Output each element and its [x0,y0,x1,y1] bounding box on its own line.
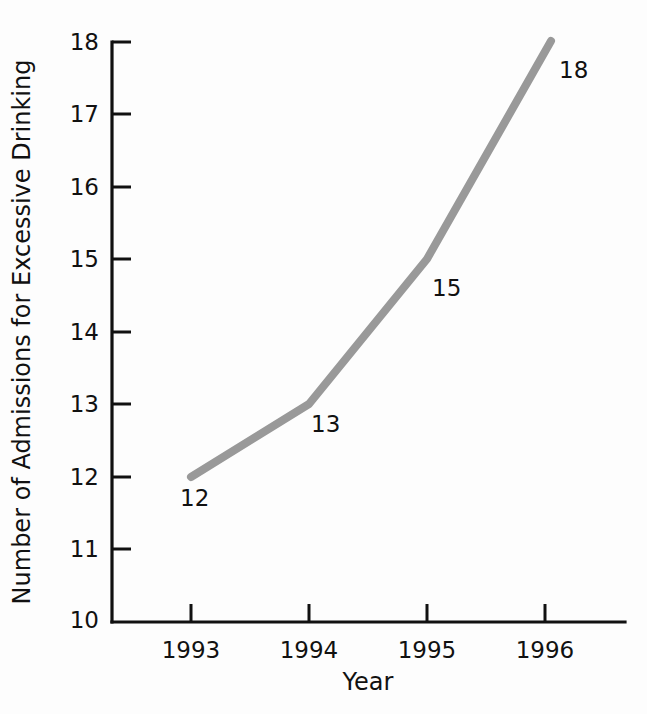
y-tick-label-16: 16 [70,174,99,200]
y-tick-label-13: 13 [70,391,99,417]
x-tick-label-1994: 1994 [280,637,339,663]
point-label-1996: 18 [559,57,588,83]
x-tick-label-1996: 1996 [516,637,575,663]
y-tick-label-10: 10 [70,607,99,633]
point-label-1995: 15 [432,275,461,301]
y-axis-title: Number of Admissions for Excessive Drink… [8,60,36,605]
y-tick-label-14: 14 [70,319,99,345]
y-tick-label-11: 11 [70,536,99,562]
point-label-1993: 12 [180,485,209,511]
series-line-admissions [191,41,551,477]
x-tick-label-1995: 1995 [398,637,457,663]
y-tick-label-18: 18 [70,29,99,55]
chart-canvas: 18 17 16 15 14 13 12 11 10 1993 1994 199… [0,0,647,714]
line-chart: 18 17 16 15 14 13 12 11 10 1993 1994 199… [0,0,647,714]
x-tick-label-1993: 1993 [162,637,221,663]
x-axis-title: Year [342,668,394,696]
y-tick-label-15: 15 [70,246,99,272]
point-label-1994: 13 [311,411,340,437]
y-tick-label-12: 12 [70,464,99,490]
y-tick-label-17: 17 [70,101,99,127]
